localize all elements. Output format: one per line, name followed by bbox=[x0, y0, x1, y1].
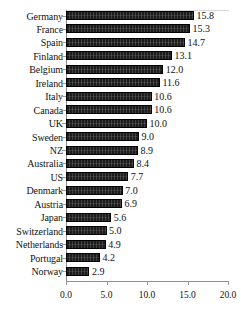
bar-row: 10.0 bbox=[66, 119, 228, 128]
bar bbox=[66, 24, 190, 33]
bar-row: 9.0 bbox=[66, 132, 228, 141]
bar-row: 8.4 bbox=[66, 159, 228, 168]
bar-row: 5.6 bbox=[66, 213, 228, 222]
y-axis-tick bbox=[62, 177, 66, 178]
bar-value-label: 4.2 bbox=[103, 252, 116, 263]
bar-value-label: 8.4 bbox=[137, 158, 150, 169]
bar-row: 14.7 bbox=[66, 38, 228, 47]
category-label: NZ bbox=[0, 146, 63, 155]
category-label: Switzerland bbox=[0, 227, 63, 236]
bar-row: 2.9 bbox=[66, 267, 228, 276]
x-axis-tick-label: 15.0 bbox=[179, 290, 196, 300]
bar-value-label: 5.6 bbox=[114, 212, 127, 223]
bar-value-label: 11.6 bbox=[162, 77, 179, 88]
y-axis-tick bbox=[62, 271, 66, 272]
category-label: France bbox=[0, 25, 63, 34]
x-axis-tick bbox=[66, 281, 67, 285]
category-label: Finland bbox=[0, 52, 63, 61]
category-axis-labels: GermanyFranceSpainFinlandBelgiumIrelandI… bbox=[0, 11, 63, 280]
category-label: Norway bbox=[0, 267, 63, 276]
bar-value-label: 7.0 bbox=[125, 185, 138, 196]
category-label: Australia bbox=[0, 159, 63, 168]
y-axis-tick bbox=[62, 56, 66, 57]
y-axis-tick bbox=[62, 150, 66, 151]
y-axis-tick bbox=[62, 204, 66, 205]
y-axis-tick bbox=[62, 137, 66, 138]
category-label: Belgium bbox=[0, 65, 63, 74]
bar-value-label: 14.7 bbox=[188, 37, 206, 48]
category-label: Germany bbox=[0, 12, 63, 21]
bar-value-label: 13.1 bbox=[175, 50, 193, 61]
bar-row: 7.7 bbox=[66, 172, 228, 181]
bar-row: 12.0 bbox=[66, 65, 228, 74]
bar-row: 13.1 bbox=[66, 51, 228, 60]
bar-value-label: 6.9 bbox=[124, 198, 137, 209]
category-label: UK bbox=[0, 119, 63, 128]
category-label: Austria bbox=[0, 200, 63, 209]
bar-row: 10.6 bbox=[66, 105, 228, 114]
category-label: Netherlands bbox=[0, 240, 63, 249]
bar-row: 15.8 bbox=[66, 11, 228, 20]
y-axis-tick bbox=[62, 217, 66, 218]
category-label: Italy bbox=[0, 92, 63, 101]
y-axis-tick bbox=[62, 29, 66, 30]
y-axis-tick bbox=[62, 96, 66, 97]
x-axis-tick-label: 20.0 bbox=[220, 290, 237, 300]
bar bbox=[66, 78, 160, 87]
x-axis-tick bbox=[228, 281, 229, 285]
x-axis-tick-label: 10.0 bbox=[139, 290, 156, 300]
bar-row: 10.6 bbox=[66, 92, 228, 101]
bar bbox=[66, 172, 128, 181]
category-label: Denmark bbox=[0, 186, 63, 195]
y-axis-tick bbox=[62, 16, 66, 17]
category-label: Portugal bbox=[0, 254, 63, 263]
y-axis-tick bbox=[62, 190, 66, 191]
x-axis-tick bbox=[107, 281, 108, 285]
bar bbox=[66, 226, 107, 235]
bar-value-label: 15.8 bbox=[196, 10, 214, 21]
bar-row: 4.9 bbox=[66, 240, 228, 249]
bar bbox=[66, 159, 134, 168]
bar-value-label: 5.0 bbox=[109, 225, 122, 236]
bar bbox=[66, 38, 185, 47]
bar-row: 6.9 bbox=[66, 199, 228, 208]
x-axis-tick bbox=[147, 281, 148, 285]
y-axis-tick bbox=[62, 110, 66, 111]
bar-row: 5.0 bbox=[66, 226, 228, 235]
y-axis-tick bbox=[62, 231, 66, 232]
y-axis-tick bbox=[62, 69, 66, 70]
y-axis-tick bbox=[62, 83, 66, 84]
x-axis-tick-label: 0.0 bbox=[60, 290, 72, 300]
x-axis: 0.05.010.015.020.0 bbox=[66, 281, 229, 305]
y-axis-tick bbox=[62, 123, 66, 124]
bar bbox=[66, 186, 123, 195]
bar-value-label: 10.0 bbox=[150, 118, 168, 129]
bar-row: 4.2 bbox=[66, 253, 228, 262]
bar-value-label: 10.6 bbox=[154, 104, 172, 115]
category-label: Japan bbox=[0, 213, 63, 222]
bar bbox=[66, 132, 139, 141]
bar-value-label: 4.9 bbox=[108, 239, 121, 250]
bar bbox=[66, 105, 152, 114]
bar bbox=[66, 267, 89, 276]
plot-area: 15.815.314.713.112.011.610.610.610.09.08… bbox=[66, 11, 228, 280]
bar bbox=[66, 240, 106, 249]
category-label: US bbox=[0, 173, 63, 182]
bar bbox=[66, 119, 147, 128]
bar-chart: GermanyFranceSpainFinlandBelgiumIrelandI… bbox=[0, 0, 241, 314]
bar-value-label: 10.6 bbox=[154, 91, 172, 102]
bar-value-label: 8.9 bbox=[141, 145, 154, 156]
y-axis-tick bbox=[62, 258, 66, 259]
bar-row: 7.0 bbox=[66, 186, 228, 195]
y-axis-tick bbox=[62, 244, 66, 245]
bar bbox=[66, 213, 111, 222]
bar-value-label: 7.7 bbox=[131, 171, 144, 182]
bar bbox=[66, 51, 172, 60]
y-axis-tick bbox=[62, 42, 66, 43]
y-axis-tick bbox=[62, 163, 66, 164]
category-label: Canada bbox=[0, 106, 63, 115]
bar-row: 8.9 bbox=[66, 146, 228, 155]
bar bbox=[66, 92, 152, 101]
bar-value-label: 12.0 bbox=[166, 64, 184, 75]
bar bbox=[66, 65, 163, 74]
